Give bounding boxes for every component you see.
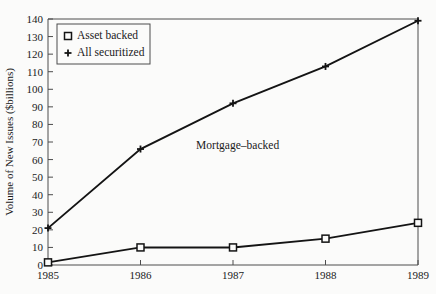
legend-item-label: All securitized — [77, 46, 145, 58]
chart-annotation-label: Mortgage–backed — [196, 139, 279, 152]
data-point-marker — [415, 219, 422, 226]
series-line — [48, 223, 418, 263]
y-tick-label: 30 — [32, 206, 44, 218]
y-axis-ticks: 0102030405060708090100110120130140 — [27, 13, 54, 271]
y-tick-label: 80 — [32, 118, 44, 130]
y-tick-label: 20 — [32, 224, 44, 236]
legend-item[interactable]: All securitized — [65, 46, 145, 58]
data-series — [45, 219, 422, 266]
data-point-marker — [230, 244, 237, 251]
y-tick-label: 40 — [32, 189, 44, 201]
y-tick-label: 60 — [32, 154, 44, 166]
x-tick-label: 1985 — [37, 269, 60, 281]
x-tick-label: 1988 — [315, 269, 338, 281]
y-tick-label: 130 — [27, 31, 44, 43]
x-tick-label: 1987 — [222, 269, 245, 281]
legend-marker-open-square-icon — [65, 33, 72, 40]
x-tick-label: 1986 — [130, 269, 153, 281]
y-tick-label: 120 — [27, 48, 44, 60]
data-point-marker — [137, 244, 144, 251]
line-chart: 0102030405060708090100110120130140 19851… — [0, 0, 436, 294]
y-tick-label: 50 — [32, 171, 44, 183]
y-axis-title: Volume of New Issues ($billions) — [3, 68, 16, 216]
y-tick-label: 140 — [27, 13, 44, 25]
x-tick-label: 1989 — [407, 269, 430, 281]
y-tick-label: 10 — [32, 241, 44, 253]
y-tick-label: 110 — [27, 66, 44, 78]
x-axis-ticks: 19851986198719881989 — [37, 260, 430, 281]
y-tick-label: 100 — [27, 83, 44, 95]
data-point-marker — [45, 259, 52, 266]
chart-annotations: Mortgage–backed — [196, 139, 279, 152]
chart-legend: Asset backedAll securitized — [57, 24, 150, 64]
legend-item-label: Asset backed — [77, 29, 138, 41]
data-point-marker — [322, 235, 329, 242]
y-tick-label: 70 — [32, 136, 44, 148]
chart-container: 0102030405060708090100110120130140 19851… — [0, 0, 436, 294]
y-tick-label: 90 — [32, 101, 44, 113]
